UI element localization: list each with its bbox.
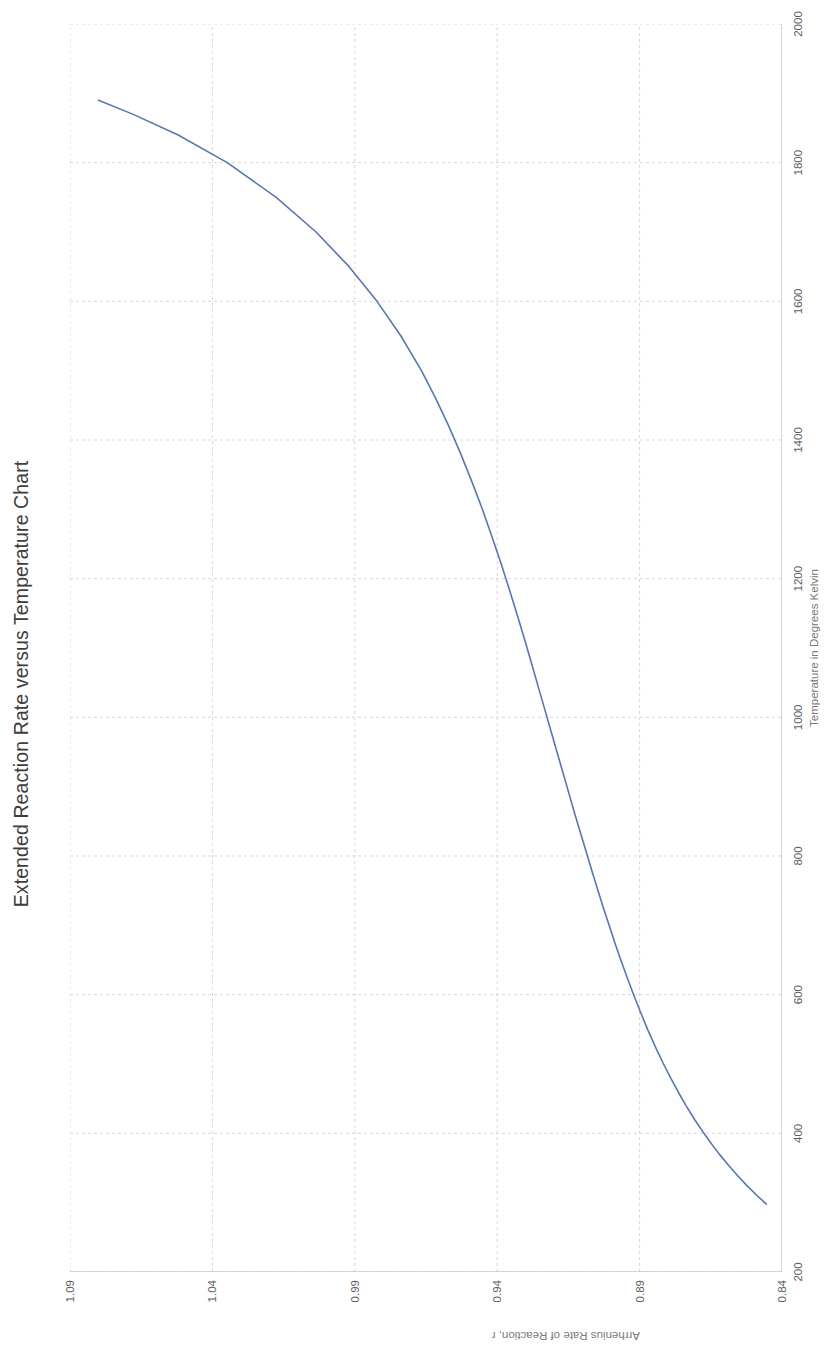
y-tick-label: 0.84: [776, 1280, 788, 1314]
y-tick-label: 0.99: [349, 1280, 361, 1314]
x-tick-label: 800: [792, 846, 804, 865]
x-tick-label: 200: [792, 1262, 804, 1281]
chart-page: Extended Reaction Rate versus Temperatur…: [0, 0, 829, 1368]
x-axis-label: Temperature in Degrees Kelvin: [808, 24, 820, 1272]
y-tick-label: 1.04: [206, 1280, 218, 1314]
x-tick-label: 600: [792, 985, 804, 1004]
x-tick-label: 1400: [792, 427, 804, 453]
line-chart-svg: [70, 24, 782, 1272]
chart-figure: Extended Reaction Rate versus Temperatur…: [0, 0, 829, 1368]
data-line-series-0: [98, 100, 766, 1204]
x-tick-label: 400: [792, 1124, 804, 1143]
x-tick-label: 1000: [792, 705, 804, 731]
page-title: Extended Reaction Rate versus Temperatur…: [10, 0, 33, 1368]
y-axis-label: Arrhenius Rate of Reaction, r: [492, 1330, 640, 1342]
y-tick-label: 0.89: [634, 1280, 646, 1314]
x-tick-label: 1200: [792, 566, 804, 592]
x-tick-label: 2000: [792, 11, 804, 37]
plot-area: 200400600800100012001400160018002000 0.8…: [70, 24, 782, 1272]
figure-rotation-wrapper: Extended Reaction Rate versus Temperatur…: [0, 0, 829, 1368]
x-tick-label: 1800: [792, 150, 804, 176]
y-tick-label: 1.09: [64, 1280, 76, 1314]
y-tick-label: 0.94: [491, 1280, 503, 1314]
data-series-group: [98, 100, 766, 1204]
x-tick-label: 1600: [792, 289, 804, 315]
